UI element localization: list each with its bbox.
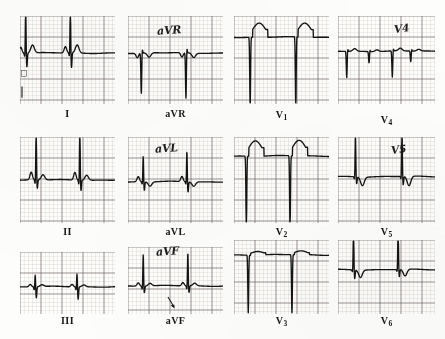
caption-lead-iii: III bbox=[20, 315, 115, 326]
caption-lead-v5: V5 bbox=[338, 226, 435, 239]
ecg-panel-lead-v2 bbox=[234, 137, 329, 223]
caption-lead-avr: aVR bbox=[128, 108, 223, 119]
caption-lead-i: I bbox=[20, 108, 115, 119]
ecg-sheet: I aVR aVR V1 V4 V4 II aVL aVL bbox=[0, 0, 445, 339]
ecg-trace-lead-ii bbox=[20, 137, 115, 223]
handwritten-label-avr: aVR bbox=[157, 23, 182, 38]
caption-lead-v4-sub: 4 bbox=[388, 118, 392, 127]
caption-lead-v6: V6 bbox=[338, 315, 435, 328]
caption-lead-v2: V2 bbox=[234, 226, 329, 239]
caption-lead-v4: V4 bbox=[338, 114, 435, 127]
ecg-panel-lead-v3 bbox=[234, 240, 329, 314]
ecg-trace-lead-i bbox=[20, 16, 115, 104]
ecg-panel-lead-v1 bbox=[234, 16, 329, 104]
ecg-trace-lead-v1 bbox=[234, 16, 329, 104]
annotation-arrow-icon bbox=[166, 296, 178, 310]
ecg-trace-lead-v4 bbox=[338, 16, 435, 104]
caption-lead-avl: aVL bbox=[128, 226, 223, 237]
ecg-trace-lead-v6 bbox=[338, 240, 435, 314]
handwritten-label-avl: aVL bbox=[155, 141, 179, 156]
caption-lead-v3: V3 bbox=[234, 315, 329, 328]
ecg-trace-lead-v2 bbox=[234, 137, 329, 223]
ecg-panel-lead-v6 bbox=[338, 240, 435, 314]
ecg-panel-lead-iii bbox=[20, 252, 115, 314]
caption-lead-avf-text: aVF bbox=[166, 315, 186, 326]
ecg-trace-lead-v3 bbox=[234, 240, 329, 314]
caption-lead-v6-sub: 6 bbox=[388, 319, 392, 328]
caption-lead-iii-text: III bbox=[61, 315, 74, 326]
ecg-panel-lead-v5 bbox=[338, 137, 435, 223]
caption-lead-avf: aVF bbox=[128, 315, 223, 326]
handwritten-label-v4: V4 bbox=[393, 21, 409, 35]
ecg-trace-lead-v5 bbox=[338, 137, 435, 223]
caption-lead-i-text: I bbox=[65, 108, 69, 119]
ecg-panel-lead-i bbox=[20, 16, 115, 104]
handwritten-label-avf: aVF bbox=[156, 244, 180, 259]
caption-lead-v3-sub: 3 bbox=[283, 319, 287, 328]
caption-lead-avr-text: aVR bbox=[165, 108, 186, 119]
ecg-panel-lead-v4 bbox=[338, 16, 435, 104]
caption-lead-ii-text: II bbox=[63, 226, 72, 237]
caption-lead-v5-sub: 5 bbox=[388, 230, 392, 239]
handwritten-label-v5: V5 bbox=[390, 142, 406, 156]
ecg-trace-lead-iii bbox=[20, 252, 115, 314]
ecg-panel-lead-ii bbox=[20, 137, 115, 223]
caption-lead-v1-sub: 1 bbox=[283, 113, 287, 122]
caption-lead-avl-text: aVL bbox=[165, 226, 185, 237]
caption-lead-v1: V1 bbox=[234, 109, 329, 122]
caption-lead-v2-sub: 2 bbox=[283, 230, 287, 239]
caption-lead-ii: II bbox=[20, 226, 115, 237]
